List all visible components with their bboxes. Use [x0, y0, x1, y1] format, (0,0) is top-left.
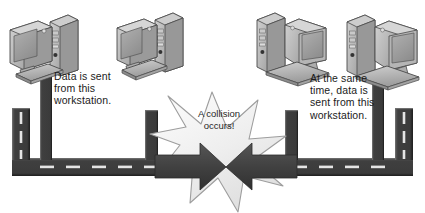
collision-label: A collision occurs!: [186, 108, 252, 131]
bus-collision-diagram: Data is sent from this workstation. At t…: [0, 0, 425, 213]
callout-right-workstation: At the same time, data is sent from this…: [310, 72, 386, 121]
callout-left-workstation: Data is sent from this workstation.: [54, 70, 128, 107]
